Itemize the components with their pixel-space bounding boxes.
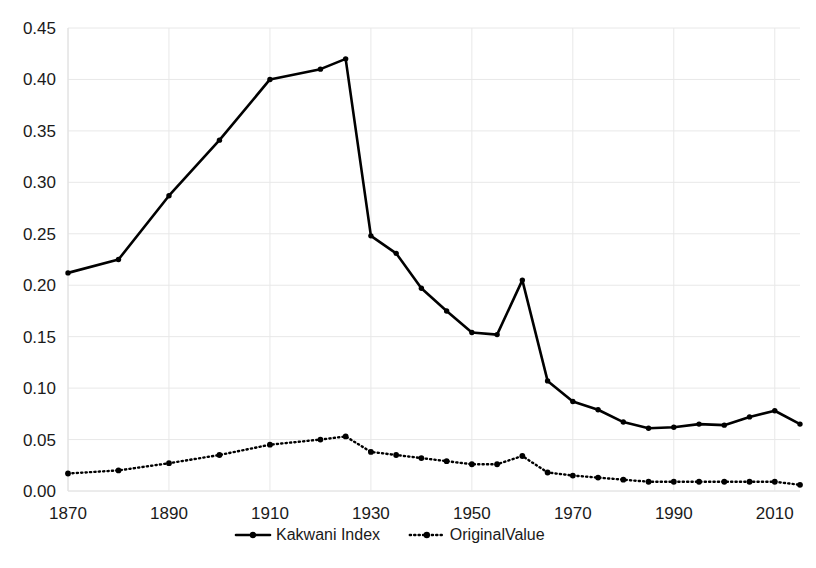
- data-point-marker: [772, 479, 778, 485]
- data-point-marker: [545, 378, 550, 383]
- legend-label[interactable]: Kakwani Index: [276, 526, 380, 543]
- data-point-marker: [494, 332, 499, 337]
- chart-container: 0.000.050.100.150.200.250.300.350.400.45…: [0, 0, 816, 568]
- y-tick-label: 0.35: [23, 122, 56, 141]
- data-point-marker: [368, 449, 374, 455]
- data-point-marker: [393, 452, 399, 458]
- data-point-marker: [519, 453, 525, 459]
- data-point-marker: [797, 421, 802, 426]
- series-line-originalvalue: [68, 436, 800, 484]
- y-tick-label: 0.05: [23, 431, 56, 450]
- legend-marker: [250, 532, 256, 538]
- x-tick-label: 1970: [554, 504, 592, 523]
- chart-legend: Kakwani IndexOriginalValue: [236, 526, 545, 543]
- data-point-marker: [797, 482, 803, 488]
- data-point-marker: [696, 479, 702, 485]
- data-point-marker: [646, 479, 652, 485]
- y-tick-label: 0.40: [23, 70, 56, 89]
- data-point-marker: [570, 473, 576, 479]
- data-point-marker: [368, 233, 373, 238]
- data-point-marker: [722, 422, 727, 427]
- data-point-marker: [772, 408, 777, 413]
- data-point-marker: [116, 468, 122, 474]
- data-point-marker: [444, 458, 450, 464]
- y-tick-label: 0.20: [23, 276, 56, 295]
- x-tick-label: 2010: [756, 504, 794, 523]
- data-point-marker: [343, 56, 348, 61]
- data-point-marker: [419, 286, 424, 291]
- data-point-marker: [65, 471, 71, 477]
- y-tick-label: 0.25: [23, 225, 56, 244]
- y-tick-label: 0.00: [23, 482, 56, 501]
- series-line-kakwani-index: [68, 59, 800, 428]
- data-point-marker: [217, 137, 222, 142]
- data-point-marker: [393, 251, 398, 256]
- data-point-marker: [570, 399, 575, 404]
- data-point-marker: [65, 270, 70, 275]
- data-point-marker: [747, 414, 752, 419]
- x-tick-label: 1990: [655, 504, 693, 523]
- data-point-marker: [620, 477, 626, 483]
- y-tick-label: 0.15: [23, 328, 56, 347]
- data-point-marker: [721, 479, 727, 485]
- x-tick-label: 1950: [453, 504, 491, 523]
- y-tick-label: 0.30: [23, 173, 56, 192]
- data-point-marker: [343, 434, 349, 440]
- legend-marker: [424, 532, 430, 538]
- data-point-marker: [671, 479, 677, 485]
- line-chart: 0.000.050.100.150.200.250.300.350.400.45…: [0, 0, 816, 568]
- y-axis-tick-labels: 0.000.050.100.150.200.250.300.350.400.45: [23, 19, 56, 501]
- data-point-marker: [696, 421, 701, 426]
- data-point-marker: [545, 470, 551, 476]
- data-series-layer: [65, 56, 803, 488]
- data-point-marker: [671, 425, 676, 430]
- data-point-marker: [418, 455, 424, 461]
- data-point-marker: [444, 308, 449, 313]
- x-tick-label: 1930: [352, 504, 390, 523]
- data-point-marker: [267, 77, 272, 82]
- gridlines-group: [68, 28, 800, 491]
- legend-label[interactable]: OriginalValue: [450, 526, 545, 543]
- data-point-marker: [494, 461, 500, 467]
- x-tick-label: 1870: [49, 504, 87, 523]
- data-point-marker: [267, 442, 273, 448]
- data-point-marker: [646, 426, 651, 431]
- data-point-marker: [595, 475, 601, 481]
- data-point-marker: [520, 277, 525, 282]
- x-tick-label: 1890: [150, 504, 188, 523]
- data-point-marker: [318, 66, 323, 71]
- data-point-marker: [595, 407, 600, 412]
- data-point-marker: [217, 452, 223, 458]
- data-point-marker: [318, 437, 324, 443]
- data-point-marker: [469, 461, 475, 467]
- data-point-marker: [166, 193, 171, 198]
- data-point-marker: [116, 257, 121, 262]
- data-point-marker: [166, 460, 172, 466]
- data-point-marker: [469, 330, 474, 335]
- data-point-marker: [747, 479, 753, 485]
- y-tick-label: 0.45: [23, 19, 56, 38]
- y-tick-label: 0.10: [23, 379, 56, 398]
- x-axis-tick-labels: 18701890191019301950197019902010: [49, 504, 794, 523]
- data-point-marker: [621, 419, 626, 424]
- x-tick-label: 1910: [251, 504, 289, 523]
